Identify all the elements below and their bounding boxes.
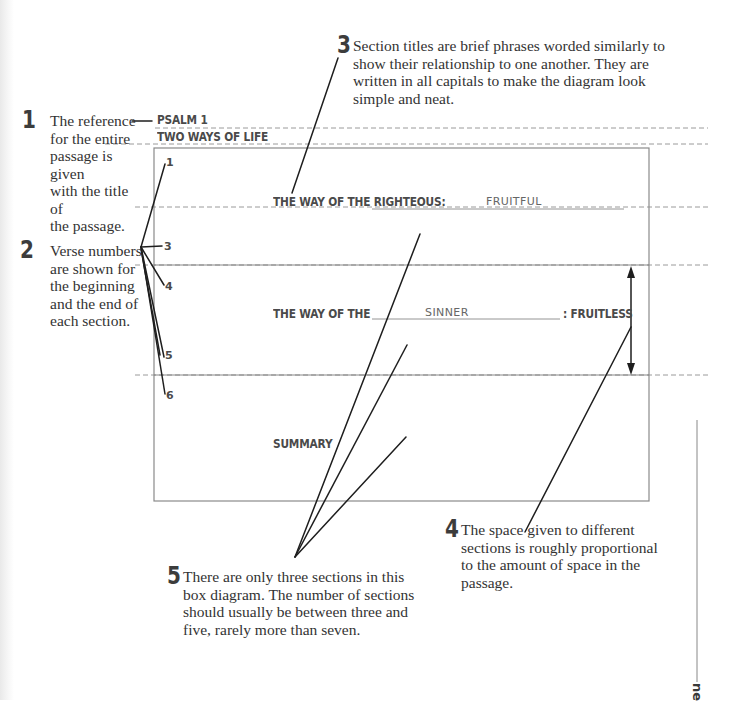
annotation-3-text: Section titles are brief phrases worded …: [353, 37, 693, 107]
margin-text: ne: [690, 683, 705, 701]
annotation-line: There are only three sections in this: [183, 568, 423, 586]
annotation-line: the beginning: [50, 277, 142, 295]
section-fill-in: SINNER: [425, 306, 469, 319]
annotation-line: to the amount of space in the: [461, 556, 701, 574]
verse-number: 6: [166, 389, 174, 402]
annotation-line: each section.: [50, 312, 142, 330]
annotation-line: Section titles are brief phrases worded …: [353, 37, 693, 55]
annotation-line: The space given to different: [461, 521, 701, 539]
annotation-line: passage is given: [50, 147, 136, 182]
section-title-righteous: THE WAY OF THE RIGHTEOUS:: [273, 195, 446, 209]
annotation-number-3: 3: [337, 32, 351, 57]
annotation-line: five, rarely more than seven.: [183, 621, 423, 639]
annotation-number-5: 5: [167, 563, 181, 588]
annotation-line: for the entire: [50, 130, 136, 148]
dashed-guides: [105, 128, 708, 375]
verse-number: 1: [166, 156, 174, 169]
verse-number: 5: [165, 349, 173, 362]
annotation-5-text: There are only three sections in this bo…: [183, 568, 423, 638]
annotation-line: The reference: [50, 112, 136, 130]
passage-title: TWO WAYS OF LIFE: [157, 130, 268, 144]
annotation-line: should usually be between three and: [183, 603, 423, 621]
annotation-line: written in all capitals to make the diag…: [353, 72, 693, 90]
annotation-number-1: 1: [22, 107, 36, 132]
annotation-2-text: Verse numbers are shown for the beginnin…: [50, 242, 142, 330]
annotation-line: the passage.: [50, 217, 136, 235]
section-title-summary: SUMMARY: [273, 437, 332, 451]
annotation-4-text: The space given to different sections is…: [461, 521, 701, 591]
annotation-line: with the title of: [50, 182, 136, 217]
passage-reference: PSALM 1: [157, 113, 208, 127]
verse-number: 3: [164, 240, 172, 253]
verse-number: 4: [165, 280, 173, 293]
annotation-line: simple and neat.: [353, 90, 693, 108]
annotation-number-4: 4: [445, 516, 459, 541]
annotation-line: Verse numbers: [50, 242, 142, 260]
annotation-line: sections is roughly proportional: [461, 539, 701, 557]
annotation-line: are shown for: [50, 260, 142, 278]
annotation-1-text: The reference for the entire passage is …: [50, 112, 136, 235]
annotation-line: passage.: [461, 574, 701, 592]
section-suffix: : FRUITLESS: [563, 307, 633, 321]
annotation-line: and the end of: [50, 295, 142, 313]
section-title-sinner: THE WAY OF THE: [273, 307, 370, 321]
annotation-line: show their relationship to one another. …: [353, 55, 693, 73]
annotation-line: box diagram. The number of sections: [183, 586, 423, 604]
section-fill-in: FRUITFUL: [486, 195, 542, 208]
annotation-number-2: 2: [20, 237, 34, 262]
